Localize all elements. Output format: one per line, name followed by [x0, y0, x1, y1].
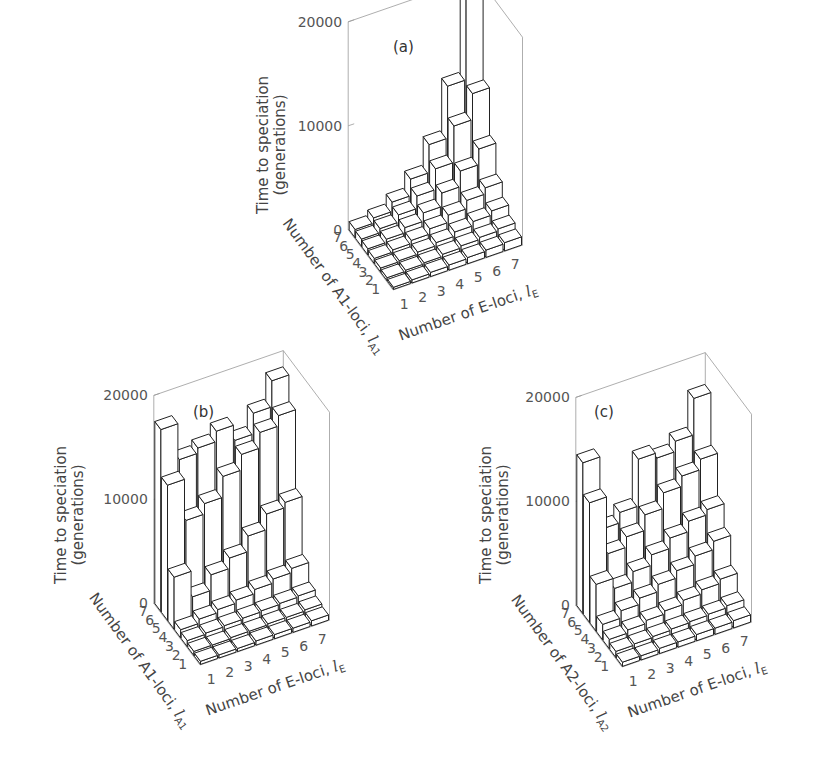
e-tick-label: 1 — [629, 673, 638, 689]
a-tick-label: 7 — [561, 605, 570, 621]
e-tick-label: 6 — [721, 640, 730, 656]
e-tick-label: 2 — [647, 666, 656, 682]
bars — [577, 384, 751, 666]
e-tick-label: 7 — [740, 633, 749, 649]
chart-panel-c: (c) Time to speciation (generations) 010… — [0, 0, 824, 761]
bar3d-plot: 0100002000012345671234567Number of E-loc… — [0, 0, 824, 761]
z-tick-label: 10000 — [525, 493, 570, 509]
e-tick-label: 5 — [703, 646, 712, 662]
z-tick-label: 20000 — [525, 389, 570, 405]
e-tick-label: 4 — [684, 653, 693, 669]
e-tick-label: 3 — [666, 660, 675, 676]
